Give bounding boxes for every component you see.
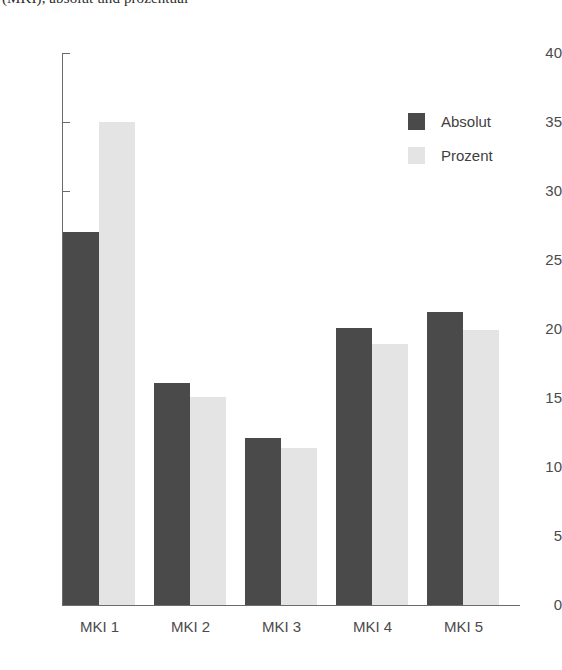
y-axis-tick-label: 0	[518, 597, 562, 612]
legend-item-absolut: Absolut	[408, 104, 493, 138]
x-axis-tick-label: MKI 1	[54, 618, 145, 635]
y-axis-tick-label: 40	[518, 45, 562, 60]
legend-swatch-prozent-icon	[408, 147, 425, 164]
bar-mki-5-prozent	[463, 330, 499, 605]
legend-label: Prozent	[441, 147, 493, 164]
x-axis-tick-label: MKI 3	[236, 618, 327, 635]
x-axis-tick-label: MKI 4	[327, 618, 418, 635]
x-axis-line	[62, 605, 520, 606]
legend-label: Absolut	[441, 113, 491, 130]
chart-legend: AbsolutProzent	[408, 104, 493, 172]
y-axis-tick-label: 35	[518, 114, 562, 129]
y-axis-tick-label: 15	[518, 390, 562, 405]
bar-mki-4-absolut	[336, 328, 372, 605]
bar-mki-1-prozent	[99, 122, 135, 605]
bar-mki-1-absolut	[63, 232, 99, 605]
bar-mki-3-absolut	[245, 438, 281, 605]
bar-chart: 0510152025303540 MKI 1MKI 2MKI 3MKI 4MKI…	[0, 0, 562, 670]
bar-mki-5-absolut	[427, 312, 463, 605]
y-axis-tick-label: 5	[518, 528, 562, 543]
legend-swatch-absolut-icon	[408, 113, 425, 130]
bar-mki-4-prozent	[372, 344, 408, 605]
y-axis-tick-label: 25	[518, 252, 562, 267]
y-axis-tick-label: 30	[518, 183, 562, 198]
bar-mki-3-prozent	[281, 448, 317, 605]
bar-mki-2-absolut	[154, 383, 190, 605]
y-axis-tick-label: 20	[518, 321, 562, 336]
bar-mki-2-prozent	[190, 397, 226, 605]
x-axis-tick-label: MKI 2	[145, 618, 236, 635]
legend-item-prozent: Prozent	[408, 138, 493, 172]
x-axis-tick-label: MKI 5	[418, 618, 509, 635]
y-axis-tick-label: 10	[518, 459, 562, 474]
